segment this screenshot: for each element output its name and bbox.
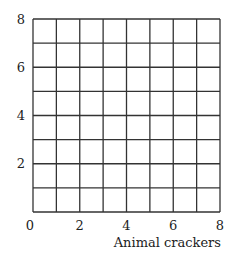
x-tick-label: 2	[76, 218, 84, 233]
y-tick-label: 4	[17, 108, 25, 123]
grid	[33, 19, 220, 212]
y-tick-label: 8	[17, 12, 25, 27]
x-axis-ticks: 02468	[26, 218, 224, 233]
y-axis-ticks: 2468	[17, 12, 25, 172]
y-tick-label: 2	[17, 156, 25, 171]
x-tick-label: 0	[26, 218, 34, 233]
chart: 2468 02468 Animal crackers	[0, 0, 241, 263]
y-tick-label: 6	[17, 60, 25, 75]
x-axis-label: Animal crackers	[113, 235, 221, 250]
x-tick-label: 6	[169, 218, 177, 233]
x-tick-label: 8	[216, 218, 224, 233]
x-tick-label: 4	[122, 218, 130, 233]
